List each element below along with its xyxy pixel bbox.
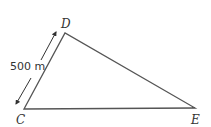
side-cd-length: 500 m — [10, 60, 45, 73]
vertex-label-d: D — [60, 17, 71, 31]
vertex-label-c: C — [16, 113, 25, 127]
vertex-label-e: E — [190, 113, 200, 127]
dimension-arrow-cd-upper — [41, 32, 56, 60]
triangle-diagram: 500 m D C E — [0, 0, 211, 127]
